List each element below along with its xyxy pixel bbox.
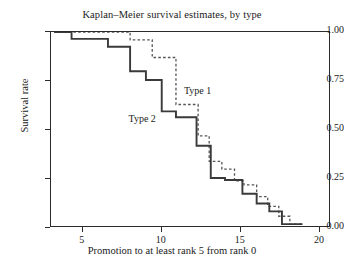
x-tick-label: 20 bbox=[299, 234, 339, 245]
y-tick-label: 1.00 bbox=[300, 24, 344, 35]
y-tick-label: 0.25 bbox=[300, 171, 344, 182]
y-tick-label: 0.50 bbox=[300, 122, 344, 133]
series-line-type-2 bbox=[54, 32, 302, 224]
x-tick-mark bbox=[319, 227, 320, 232]
x-tick-label: 10 bbox=[141, 234, 181, 245]
x-axis-title: Promotion to at least rank 5 from rank 0 bbox=[0, 245, 344, 256]
chart-title: Kaplan–Meier survival estimates, by type bbox=[0, 9, 344, 20]
x-tick-mark bbox=[240, 227, 241, 232]
y-tick-mark bbox=[45, 31, 50, 32]
x-tick-mark bbox=[161, 227, 162, 232]
y-tick-label: 0.75 bbox=[300, 73, 344, 84]
series-line-type-1 bbox=[54, 32, 302, 224]
plot-area: Type 1 Type 2 bbox=[50, 31, 330, 227]
y-tick-mark bbox=[45, 178, 50, 179]
series-label-type-2: Type 2 bbox=[129, 113, 156, 124]
y-tick-mark bbox=[45, 129, 50, 130]
chart-page: Kaplan–Meier survival estimates, by type… bbox=[0, 0, 344, 265]
y-tick-label: 0.00 bbox=[300, 220, 344, 231]
x-tick-label: 15 bbox=[220, 234, 260, 245]
y-axis-title: Survival rate bbox=[19, 36, 30, 176]
series-group bbox=[54, 32, 302, 224]
y-tick-mark bbox=[45, 80, 50, 81]
x-tick-mark bbox=[82, 227, 83, 232]
plot-svg bbox=[51, 32, 331, 228]
series-label-type-1: Type 1 bbox=[184, 85, 211, 96]
x-tick-label: 5 bbox=[62, 234, 102, 245]
y-tick-mark bbox=[45, 227, 50, 228]
